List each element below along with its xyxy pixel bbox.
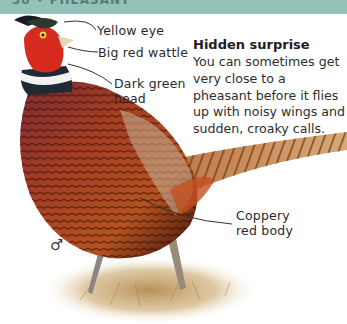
leader-head	[68, 64, 112, 84]
label-yellow-eye: Yellow eye	[97, 23, 164, 38]
leader-wattle	[68, 47, 98, 52]
panel-title: Hidden surprise	[193, 37, 310, 52]
male-symbol-icon: ♂	[50, 236, 63, 254]
label-wattle: Big red wattle	[98, 45, 188, 60]
label-body: Coppery red body	[236, 208, 293, 238]
panel-body: You can sometimes get very close to a ph…	[193, 54, 347, 138]
label-head: Dark green head	[114, 76, 186, 106]
leader-yellow-eye	[64, 21, 96, 30]
